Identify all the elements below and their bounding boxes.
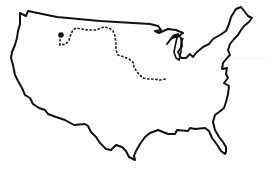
us-map [0,0,274,173]
us-map-svg [0,0,274,173]
route-start-marker [58,32,64,38]
us-outline [11,7,252,160]
